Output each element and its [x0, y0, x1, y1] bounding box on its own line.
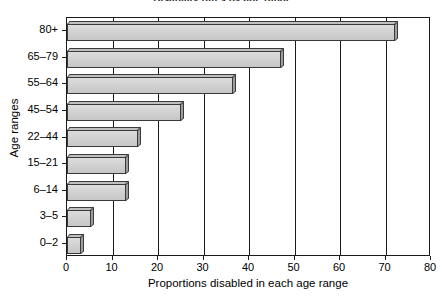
x-tick-label-10: 10	[92, 261, 132, 273]
x-tick-60	[339, 256, 340, 260]
bar-side-face	[81, 234, 84, 254]
chart-figure: Disability rates by age range Proportion…	[0, 0, 445, 296]
x-tick-label-50: 50	[274, 261, 314, 273]
x-axis-label: Proportions disabled in each age range	[66, 277, 430, 289]
x-tick-10	[112, 256, 113, 260]
y-tick-15_21	[62, 163, 66, 164]
x-tick-30	[203, 256, 204, 260]
x-tick-label-20: 20	[137, 261, 177, 273]
y-tick-6_14	[62, 190, 66, 191]
y-tick-label-45_54: 45–54	[0, 103, 58, 115]
x-tick-label-60: 60	[319, 261, 359, 273]
x-tick-label-80: 80	[410, 261, 445, 273]
bar-row	[67, 98, 429, 125]
bar-row	[67, 18, 429, 45]
x-tick-40	[248, 256, 249, 260]
y-tick-65_79	[62, 57, 66, 58]
x-tick-50	[294, 256, 295, 260]
bar-side-face	[126, 181, 129, 201]
bar-row	[67, 151, 429, 178]
x-tick-label-70: 70	[365, 261, 405, 273]
y-tick-3_5	[62, 216, 66, 217]
y-tick-0_2	[62, 243, 66, 244]
y-tick-label-15_21: 15–21	[0, 156, 58, 168]
y-tick-label-3_5: 3–5	[0, 209, 58, 221]
bar-15_21[interactable]	[67, 157, 126, 174]
x-tick-label-0: 0	[46, 261, 86, 273]
y-tick-label-80+: 80+	[0, 23, 58, 35]
y-tick-55_64	[62, 83, 66, 84]
bar-80+[interactable]	[67, 24, 395, 41]
bar-row	[67, 45, 429, 72]
y-tick-label-65_79: 65–79	[0, 50, 58, 62]
bar-row	[67, 71, 429, 98]
bar-row	[67, 204, 429, 231]
y-tick-80+	[62, 30, 66, 31]
bar-side-face	[281, 48, 284, 68]
bar-row	[67, 124, 429, 151]
bar-45_54[interactable]	[67, 104, 181, 121]
x-tick-70	[385, 256, 386, 260]
x-tick-label-40: 40	[228, 261, 268, 273]
bar-row	[67, 177, 429, 204]
bar-6_14[interactable]	[67, 184, 126, 201]
bar-3_5[interactable]	[67, 210, 91, 227]
bar-22_44[interactable]	[67, 130, 138, 147]
y-tick-22_44	[62, 137, 66, 138]
bar-55_64[interactable]	[67, 77, 233, 94]
chart-title: Disability rates by age range	[0, 0, 445, 1]
bar-side-face	[395, 21, 398, 41]
y-tick-label-0_2: 0–2	[0, 236, 58, 248]
bar-side-face	[138, 127, 141, 147]
x-tick-80	[430, 256, 431, 260]
x-tick-20	[157, 256, 158, 260]
bar-65_79[interactable]	[67, 51, 281, 68]
bar-0_2[interactable]	[67, 237, 81, 254]
bar-row	[67, 230, 429, 257]
plot-area	[66, 17, 430, 256]
y-tick-label-55_64: 55–64	[0, 76, 58, 88]
y-tick-label-22_44: 22–44	[0, 130, 58, 142]
y-tick-45_54	[62, 110, 66, 111]
bar-side-face	[91, 207, 94, 227]
bar-side-face	[181, 101, 184, 121]
bar-side-face	[233, 74, 236, 94]
x-tick-label-30: 30	[183, 261, 223, 273]
y-tick-label-6_14: 6–14	[0, 183, 58, 195]
bar-side-face	[126, 154, 129, 174]
x-tick-0	[66, 256, 67, 260]
